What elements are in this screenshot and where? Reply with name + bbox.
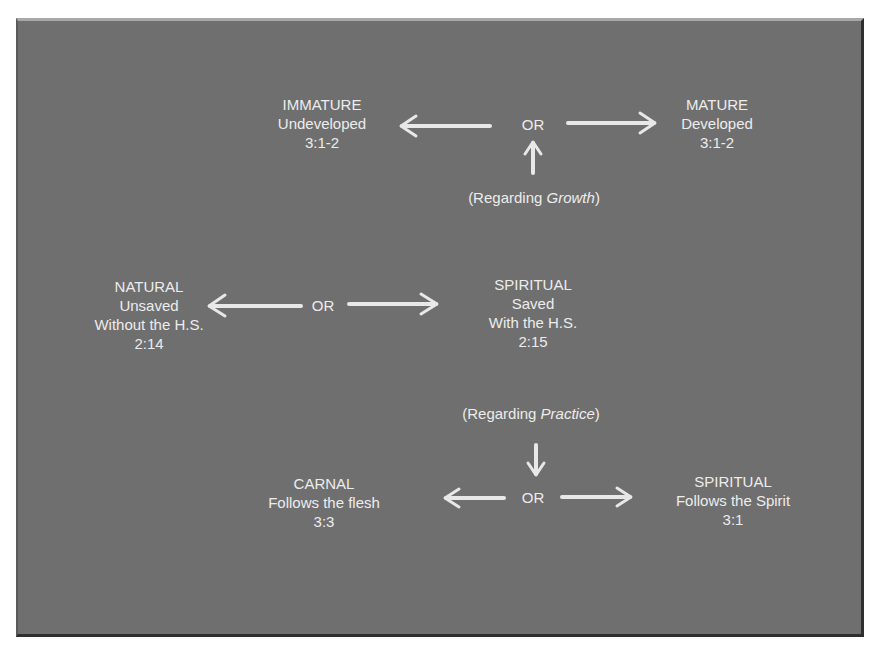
node-subtitle: Unsaved xyxy=(94,296,203,315)
arrow-down-icon xyxy=(528,445,544,475)
node-ref: 2:15 xyxy=(489,332,577,351)
or-connector-growth: OR xyxy=(522,116,545,133)
node-ref: 3:1-2 xyxy=(278,133,366,152)
node-title: CARNAL xyxy=(268,474,380,493)
note-suffix: ) xyxy=(595,405,600,422)
node-mature: MATURE Developed 3:1-2 xyxy=(681,95,753,152)
node-detail: With the H.S. xyxy=(489,313,577,332)
arrow-up-icon xyxy=(525,142,541,173)
node-subtitle: Follows the flesh xyxy=(268,493,380,512)
note-regarding-growth: (Regarding Growth) xyxy=(468,189,600,206)
node-ref: 3:1-2 xyxy=(681,133,753,152)
node-title: MATURE xyxy=(681,95,753,114)
node-subtitle: Saved xyxy=(489,294,577,313)
note-prefix: (Regarding xyxy=(462,405,540,422)
node-title: NATURAL xyxy=(94,277,203,296)
node-immature: IMMATURE Undeveloped 3:1-2 xyxy=(278,95,366,152)
note-emphasis: Practice xyxy=(541,405,595,422)
arrow-right-icon xyxy=(349,294,437,314)
node-title: IMMATURE xyxy=(278,95,366,114)
node-detail: Without the H.S. xyxy=(94,315,203,334)
note-suffix: ) xyxy=(595,189,600,206)
node-carnal: CARNAL Follows the flesh 3:3 xyxy=(268,474,380,531)
arrow-right-icon xyxy=(568,113,655,133)
node-ref: 3:1 xyxy=(676,510,790,529)
note-regarding-practice: (Regarding Practice) xyxy=(462,405,600,422)
arrow-left-icon xyxy=(401,116,490,136)
node-title: SPIRITUAL xyxy=(489,275,577,294)
arrow-left-icon xyxy=(209,295,301,316)
node-spiritual-practice: SPIRITUAL Follows the Spirit 3:1 xyxy=(676,472,790,529)
node-spiritual-saved: SPIRITUAL Saved With the H.S. 2:15 xyxy=(489,275,577,351)
node-subtitle: Undeveloped xyxy=(278,114,366,133)
node-subtitle: Developed xyxy=(681,114,753,133)
node-title: SPIRITUAL xyxy=(676,472,790,491)
note-prefix: (Regarding xyxy=(468,189,546,206)
node-ref: 2:14 xyxy=(94,334,203,353)
node-ref: 3:3 xyxy=(268,512,380,531)
arrow-right-icon xyxy=(562,488,631,506)
arrow-left-icon xyxy=(445,489,504,507)
or-connector-practice: OR xyxy=(522,489,545,506)
note-emphasis: Growth xyxy=(547,189,595,206)
or-connector-salvation: OR xyxy=(312,297,335,314)
node-subtitle: Follows the Spirit xyxy=(676,491,790,510)
node-natural: NATURAL Unsaved Without the H.S. 2:14 xyxy=(94,277,203,353)
